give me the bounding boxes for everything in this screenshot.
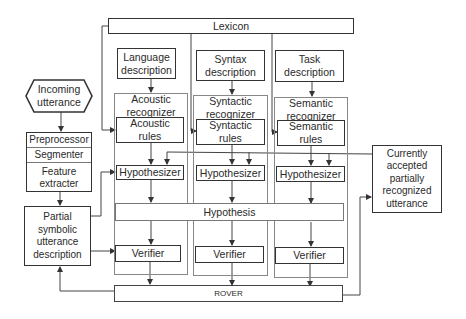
- currently-accepted-utterance-box: Currently accepted partially recognized …: [372, 145, 442, 213]
- acoustic-recognizer-label: Acoustic recognizer: [114, 93, 188, 119]
- partial-symbolic-description-box: Partial symbolic utterance description: [24, 206, 91, 266]
- syntactic-rules-box: Syntactic rules: [196, 119, 265, 145]
- syntax-description-box: Syntax description: [196, 50, 265, 81]
- preprocessor-box: Preprocessor: [27, 133, 91, 148]
- preprocessing-stack: Preprocessor Segmenter Feature extracter: [26, 132, 92, 192]
- segmenter-box: Segmenter: [27, 148, 91, 163]
- syntactic-hypothesizer-box: Hypothesizer: [196, 165, 265, 181]
- hypothesis-bar: Hypothesis: [115, 203, 344, 221]
- acoustic-rules-box: Acoustic rules: [116, 117, 184, 143]
- language-description-box: Language description: [117, 48, 176, 79]
- rover-bar: ROVER: [114, 285, 343, 302]
- task-description-box: Task description: [275, 50, 344, 82]
- semantic-hypothesizer-box: Hypothesizer: [276, 166, 345, 182]
- acoustic-hypothesizer-box: Hypothesizer: [116, 165, 184, 180]
- syntactic-recognizer-label: Syntactic recognizer: [193, 95, 268, 121]
- semantic-rules-box: Semantic rules: [277, 120, 345, 146]
- syntactic-verifier-box: Verifier: [195, 246, 264, 263]
- acoustic-verifier-box: Verifier: [115, 245, 181, 262]
- lexicon-box: Lexicon: [108, 18, 354, 34]
- semantic-verifier-box: Verifier: [275, 247, 344, 264]
- incoming-utterance: Incoming utterance: [26, 83, 92, 109]
- feature-extracter-box: Feature extracter: [27, 163, 91, 190]
